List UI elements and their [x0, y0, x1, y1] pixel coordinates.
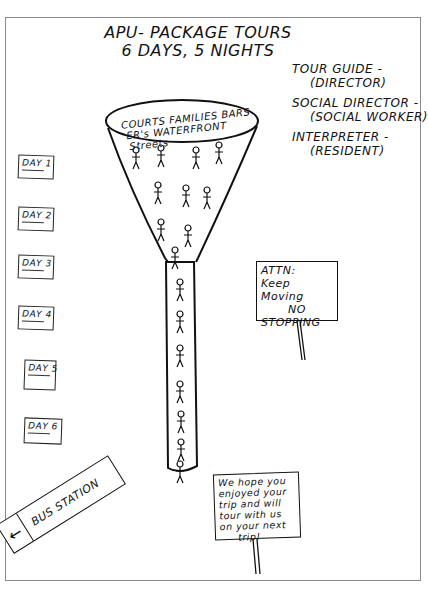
- day-card-4: DAY 4: [18, 305, 55, 330]
- day-label: DAY 3: [22, 258, 50, 269]
- squiggle-icon: [22, 222, 44, 224]
- day-card-5: DAY 5: [23, 359, 56, 390]
- attn-sign-line: Keep Moving: [261, 277, 333, 303]
- funnel-right-side: [196, 126, 257, 262]
- day-label: DAY 5: [28, 363, 52, 374]
- day-label: DAY 6: [28, 420, 58, 431]
- attn-sign-line: ATTN:: [261, 264, 333, 277]
- day-card-3: DAY 3: [18, 254, 55, 279]
- squiggle-icon: [22, 321, 44, 323]
- attn-sign: ATTN: Keep Moving NO STOPPING: [256, 261, 338, 321]
- day-card-6: DAY 6: [24, 417, 63, 444]
- stick-figures: [132, 142, 223, 483]
- day-card-2: DAY 2: [18, 206, 55, 231]
- attn-sign-line: STOPPING: [261, 316, 333, 329]
- day-card-1: DAY 1: [18, 154, 55, 179]
- attn-sign-line: NO: [261, 303, 333, 316]
- squiggle-icon: [28, 432, 50, 434]
- squiggle-icon: [22, 270, 44, 272]
- farewell-sign: We hope you enjoyed your trip and will t…: [213, 472, 301, 541]
- day-label: DAY 4: [22, 309, 50, 320]
- squiggle-icon: [28, 375, 50, 377]
- funnel-tube: [166, 262, 197, 471]
- day-label: DAY 2: [22, 210, 50, 221]
- day-label: DAY 1: [22, 158, 50, 169]
- squiggle-icon: [22, 170, 44, 172]
